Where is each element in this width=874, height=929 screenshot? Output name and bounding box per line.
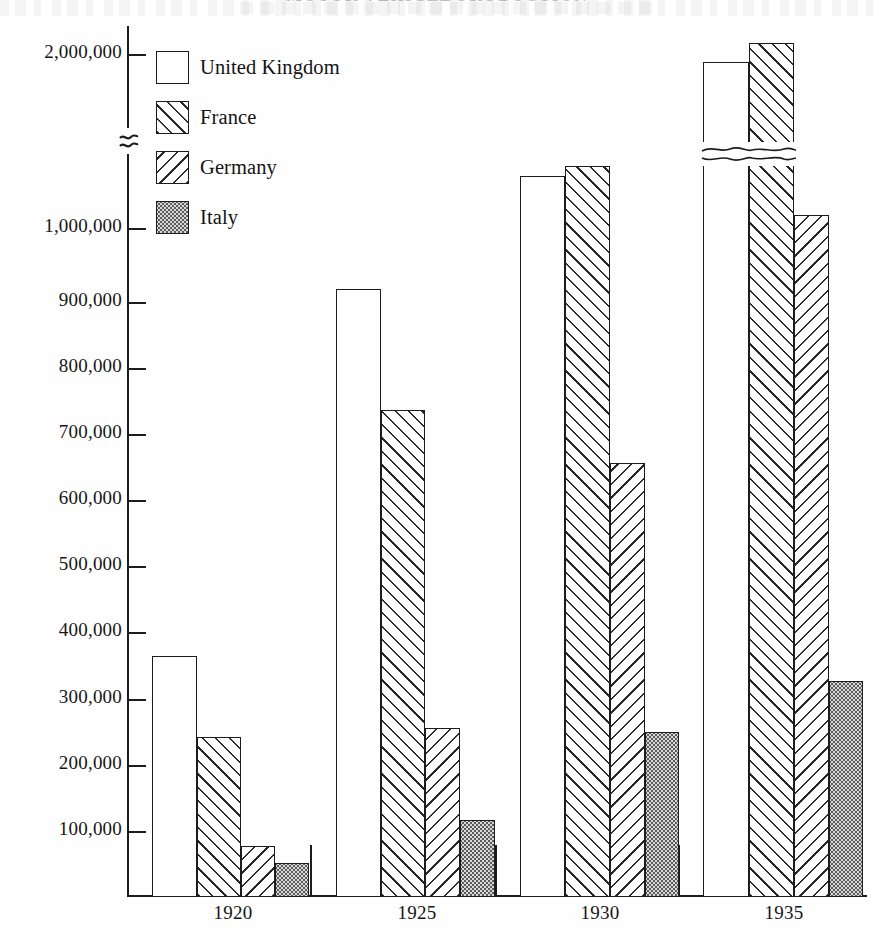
plot-area: 2,000,000 1,000,000 900,000 800,000 700,…: [0, 0, 874, 929]
chart-page: MOTOR VEHICLE PRODUCTION 2,000,000 1,000…: [0, 0, 874, 929]
y-axis-break-symbol: [118, 128, 140, 154]
legend-swatch-united-kingdom-icon: [156, 51, 189, 84]
y-tick-700000: [129, 434, 146, 436]
y-tick-600000: [129, 500, 146, 502]
bar-1935-italy: [829, 681, 863, 897]
legend-item-united-kingdom: United Kingdom: [156, 44, 416, 90]
y-tick-500000: [129, 566, 146, 568]
x-tick-label-1930: 1930: [525, 902, 675, 924]
legend-item-france: France: [156, 94, 416, 140]
y-tick-200000: [129, 765, 146, 767]
y-tick-label-100000: 100,000: [10, 818, 122, 840]
bar-1920-france: [197, 737, 241, 897]
x-tick-label-1925: 1925: [342, 902, 492, 924]
bar-1930-united-kingdom: [520, 176, 565, 897]
legend-item-germany: Germany: [156, 144, 416, 190]
bar-1925-france: [381, 410, 425, 897]
legend-swatch-italy-icon: [156, 201, 189, 234]
bar-1920-italy: [275, 863, 309, 897]
y-tick-label-900000: 900,000: [10, 289, 122, 311]
legend-label-germany: Germany: [200, 156, 277, 179]
y-tick-label-700000: 700,000: [10, 421, 122, 443]
y-tick-400000: [129, 632, 146, 634]
chart-legend: United Kingdom France Germany Italy: [156, 44, 416, 244]
y-tick-2000000: [129, 54, 146, 56]
bar-1930-italy: [645, 732, 679, 897]
y-tick-label-300000: 300,000: [10, 686, 122, 708]
bar-1930-germany: [610, 463, 645, 897]
bar-1920-germany: [241, 846, 275, 897]
y-tick-800000: [129, 368, 146, 370]
x-tick-label-1920: 1920: [158, 902, 308, 924]
legend-label-italy: Italy: [200, 206, 238, 229]
y-tick-label-1000000: 1,000,000: [10, 215, 122, 237]
bar-1935-france: [749, 43, 794, 897]
y-tick-label-400000: 400,000: [10, 619, 122, 641]
bar-break-band-lower: [700, 154, 798, 166]
y-tick-label-200000: 200,000: [10, 752, 122, 774]
y-tick-label-800000: 800,000: [10, 355, 122, 377]
group-separator-0: [127, 845, 129, 897]
y-tick-1000000: [129, 228, 146, 230]
bar-break-band: [700, 142, 798, 154]
bar-1925-germany: [425, 728, 460, 897]
bar-1930-france: [565, 166, 610, 897]
y-tick-label-2000000: 2,000,000: [10, 41, 122, 63]
y-tick-300000: [129, 699, 146, 701]
legend-swatch-germany-icon: [156, 151, 189, 184]
y-tick-100000: [129, 831, 146, 833]
bar-1925-italy: [460, 820, 495, 897]
y-tick-label-600000: 600,000: [10, 487, 122, 509]
legend-item-italy: Italy: [156, 194, 416, 240]
bar-1920-united-kingdom: [152, 656, 197, 897]
bar-1935-germany: [794, 215, 829, 897]
legend-label-france: France: [200, 106, 256, 129]
legend-label-united-kingdom: United Kingdom: [200, 56, 340, 79]
y-tick-900000: [129, 302, 146, 304]
x-tick-label-1935: 1935: [709, 902, 859, 924]
y-tick-label-500000: 500,000: [10, 553, 122, 575]
bar-1935-united-kingdom: [703, 62, 749, 897]
group-separator-2: [495, 845, 497, 897]
legend-swatch-france-icon: [156, 101, 189, 134]
group-separator-1: [310, 845, 312, 897]
bar-1925-united-kingdom: [336, 289, 381, 897]
